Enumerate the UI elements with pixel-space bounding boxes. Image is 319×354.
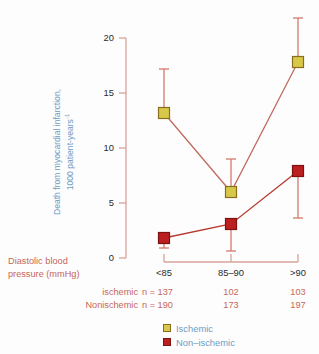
chart-container: 20 15 10 5 0 Death from myocardial infar… [0, 0, 319, 354]
chart-legend: Ischemic Non–ischemic [163, 321, 235, 349]
legend-item-nonischemic: Non–ischemic [163, 335, 235, 349]
legend-item-ischemic: Ischemic [163, 321, 235, 335]
legend-swatch-nonischemic-icon [163, 338, 171, 346]
n-row-label-nonischemic: Nonischemic [40, 300, 138, 310]
n-value-ischemic-85-90: 102 [204, 287, 258, 297]
x-axis-title-line2: pressure (mmHg) [8, 269, 79, 279]
x-category-label-gt90: >90 [268, 267, 319, 278]
y-tick-label-20: 20 [90, 32, 114, 43]
legend-label-nonischemic: Non–ischemic [176, 337, 235, 348]
y-tick-label-5: 5 [90, 197, 114, 208]
legend-swatch-ischemic-icon [163, 324, 171, 332]
x-category-label-lt85: <85 [134, 267, 194, 278]
error-bars-ischemic [159, 18, 303, 192]
n-row-label-ischemic: ischemic [40, 287, 138, 297]
n-value-ischemic-lt85: n = 137 [142, 287, 202, 297]
y-tick-label-10: 10 [90, 142, 114, 153]
legend-label-ischemic: Ischemic [176, 323, 213, 334]
y-tick-label-15: 15 [90, 87, 114, 98]
n-value-nonischemic-gt90: 197 [271, 300, 319, 310]
n-value-nonischemic-85-90: 173 [204, 300, 258, 310]
x-category-label-85-90: 85–90 [201, 267, 261, 278]
n-value-ischemic-gt90: 103 [271, 287, 319, 297]
n-value-nonischemic-lt85: n = 190 [142, 300, 202, 310]
x-axis-title-line1: Diastolic blood [8, 256, 68, 266]
x-axis-title: Diastolic blood pressure (mmHg) [8, 255, 116, 280]
